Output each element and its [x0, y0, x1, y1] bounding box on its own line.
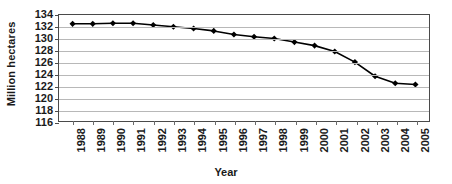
x-axis-tick-label: 1993 [177, 128, 188, 152]
x-axis-tick-label: 2000 [319, 128, 330, 152]
y-axis-tick-mark [55, 15, 59, 16]
data-series-line [59, 15, 429, 121]
data-point-marker [130, 20, 136, 26]
y-axis-tick-mark [55, 39, 59, 40]
x-axis-tick-label: 1991 [136, 128, 147, 152]
y-axis-tick-mark [55, 75, 59, 76]
gridline [59, 39, 429, 40]
x-axis-tick-labels: 1988198919901991199219931994199519961997… [58, 122, 430, 168]
y-axis-tick-label: 132 [35, 21, 53, 32]
gridline [59, 87, 429, 88]
y-axis-tick-mark [55, 99, 59, 100]
y-axis-tick-mark [55, 63, 59, 64]
line-chart: Million hectares 11611812012212412612813… [0, 0, 452, 184]
data-point-marker [311, 43, 317, 49]
y-axis-tick-mark [55, 87, 59, 88]
y-axis-tick-mark [55, 51, 59, 52]
x-axis-tick-label: 1998 [278, 128, 289, 152]
x-axis-title: Year [0, 166, 452, 178]
x-axis-tick-label: 2005 [420, 128, 431, 152]
x-axis-tick-label: 2002 [360, 128, 371, 152]
y-axis-tick-mark [55, 27, 59, 28]
gridline [59, 51, 429, 52]
x-axis-tick-label: 1997 [258, 128, 269, 152]
y-axis-title: Million hectares [0, 0, 22, 128]
gridline [59, 99, 429, 100]
x-axis-tick-label: 1990 [116, 128, 127, 152]
y-axis-tick-label: 116 [35, 117, 53, 128]
data-point-marker [392, 80, 398, 86]
x-axis-tick-label: 2003 [380, 128, 391, 152]
y-axis-tick-label: 130 [35, 33, 53, 44]
x-axis-tick-label: 1999 [299, 128, 310, 152]
x-axis-tick-label: 2001 [339, 128, 350, 152]
gridline [59, 111, 429, 112]
series-markers [70, 20, 419, 87]
x-axis-tick-label: 1995 [218, 128, 229, 152]
x-axis-tick-label: 1994 [197, 128, 208, 152]
data-point-marker [231, 31, 237, 37]
data-point-marker [110, 20, 116, 26]
y-axis-tick-labels: 116118120122124126128130132134 [22, 0, 56, 184]
y-axis-tick-label: 124 [35, 69, 53, 80]
x-axis-tick-label: 2004 [400, 128, 411, 152]
x-axis-tick-label: 1989 [96, 128, 107, 152]
x-axis-tick-label: 1992 [157, 128, 168, 152]
plot-area [58, 14, 430, 122]
gridline [59, 27, 429, 28]
y-axis-tick-label: 134 [35, 9, 53, 20]
y-axis-title-text: Million hectares [5, 22, 17, 107]
x-axis-tick-label: 1988 [76, 128, 87, 152]
y-axis-tick-label: 126 [35, 57, 53, 68]
y-axis-tick-label: 120 [35, 93, 53, 104]
y-axis-tick-label: 128 [35, 45, 53, 56]
y-axis-tick-mark [55, 111, 59, 112]
x-axis-tick-label: 1996 [238, 128, 249, 152]
y-axis-tick-label: 122 [35, 81, 53, 92]
y-axis-tick-label: 118 [35, 105, 53, 116]
gridline [59, 75, 429, 76]
gridline [59, 63, 429, 64]
data-point-marker [211, 28, 217, 34]
data-point-marker [90, 21, 96, 27]
data-point-marker [70, 21, 76, 27]
